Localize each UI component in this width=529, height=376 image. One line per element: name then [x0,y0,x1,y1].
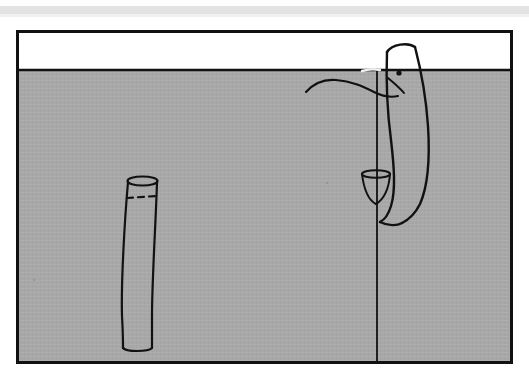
ground-region [16,70,513,364]
ground-speckle [33,279,35,281]
scan-artifact-band [0,6,529,14]
ground-speckle [326,182,328,184]
scan-artifact-band-soft [0,14,529,17]
sky-region [16,30,513,70]
page-root [0,0,529,376]
knot-dot-icon [396,70,401,75]
figure-panel [16,30,513,364]
figure-illustration [16,30,513,364]
